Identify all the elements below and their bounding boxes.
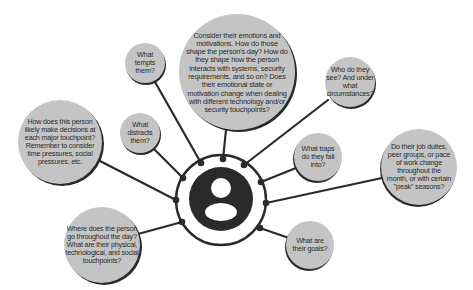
bubble-text-emotions: Consider their emotions and motivations.… (184, 22, 290, 124)
bubble-text-where: Where does the person go throughout the … (64, 216, 140, 274)
bubble-text-who: Who do they see? And under what circumst… (326, 64, 374, 100)
bubble-text-decisions: How does this person likely make decisio… (22, 106, 98, 178)
hub-inner-circle (189, 167, 253, 231)
bubble-text-goals: What are their goals? (292, 229, 328, 261)
connector-traps (261, 168, 296, 182)
bubble-text-distracts: What distracts them? (121, 119, 159, 147)
connector-goals (260, 228, 289, 238)
connector-where (138, 222, 182, 234)
connector-distracts (154, 149, 183, 178)
bubble-text-tempts: What tempts them? (129, 49, 161, 77)
bubble-text-job: Do their job duties, peer groups, or pac… (386, 136, 452, 198)
central-hub (173, 155, 270, 245)
bubble-text-traps: What traps do they fall into? (298, 141, 338, 173)
connector-decisions (98, 160, 176, 200)
